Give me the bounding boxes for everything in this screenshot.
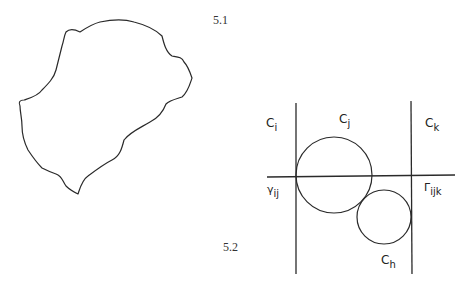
label-sub: k xyxy=(433,122,439,133)
label-sub: ij xyxy=(274,188,280,199)
horizontal-boundary xyxy=(267,175,455,177)
label-c-k: Ck xyxy=(425,117,439,133)
label-sub: j xyxy=(347,118,350,129)
label-sub: ijk xyxy=(430,186,441,197)
vertical-boundary-right xyxy=(411,101,412,274)
large-circle-cj xyxy=(296,137,372,213)
figure-label-5-1: 5.1 xyxy=(213,13,228,28)
figure-label-5-2: 5.2 xyxy=(223,240,238,255)
label-gamma-ijk: Γijk xyxy=(424,182,442,197)
label-c-h: Ch xyxy=(381,254,396,270)
label-sub: h xyxy=(389,259,395,270)
label-sub: i xyxy=(274,122,277,133)
label-c-i: Ci xyxy=(266,117,277,133)
label-c-j: Cj xyxy=(339,113,350,129)
label-gamma-ij: γij xyxy=(267,184,279,199)
irregular-closed-curve xyxy=(19,20,192,194)
small-circle-ch xyxy=(357,190,411,244)
